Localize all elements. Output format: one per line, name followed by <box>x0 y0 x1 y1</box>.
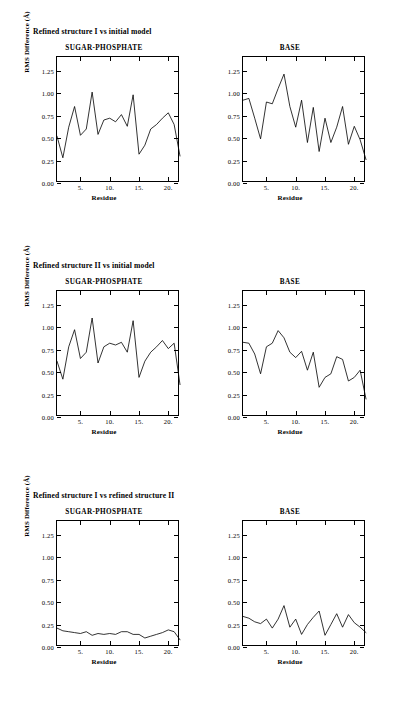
chart-title: SUGAR-PHOSPHATE <box>14 44 194 52</box>
x-tick-label: 10. <box>105 418 114 425</box>
chart-title: BASE <box>200 508 380 516</box>
x-tick-label: 10. <box>291 184 300 191</box>
y-tick-label: 1.00 <box>42 324 54 331</box>
x-tick-label: 15. <box>321 418 330 425</box>
x-tick-label: 15. <box>135 184 144 191</box>
chart-sugar-phosphate: SUGAR-PHOSPHATERMS Difference (Å)0.000.2… <box>14 508 194 693</box>
y-axis-label: RMS Difference (Å) <box>23 451 31 561</box>
y-tick-mark <box>360 647 364 648</box>
plot-area: RMS Difference (Å)0.000.250.500.751.001.… <box>56 56 179 182</box>
x-axis-label: Residue <box>14 658 194 666</box>
x-tick-label: 10. <box>291 648 300 655</box>
y-tick-label: 0.00 <box>228 414 240 421</box>
y-tick-label: 1.25 <box>42 67 54 74</box>
x-tick-label: 20. <box>164 418 173 425</box>
y-tick-label: 0.75 <box>228 112 240 119</box>
x-tick-label: 5. <box>78 184 83 191</box>
y-tick-mark <box>243 647 247 648</box>
y-tick-label: 0.50 <box>42 135 54 142</box>
x-tick-label: 15. <box>321 184 330 191</box>
x-tick-label: 15. <box>321 648 330 655</box>
y-tick-label: 1.25 <box>228 67 240 74</box>
data-series-line <box>57 291 180 417</box>
x-tick-label: 20. <box>350 418 359 425</box>
x-axis-label: Residue <box>14 194 194 202</box>
y-tick-mark <box>57 647 61 648</box>
y-tick-mark <box>360 183 364 184</box>
x-tick-label: 20. <box>164 648 173 655</box>
y-tick-label: 0.75 <box>228 346 240 353</box>
plot-area: 0.000.250.500.751.001.255.10.15.20. <box>242 56 365 182</box>
x-tick-label: 5. <box>264 184 269 191</box>
x-axis-label: Residue <box>14 428 194 436</box>
y-tick-mark <box>243 417 247 418</box>
y-tick-label: 1.25 <box>228 531 240 538</box>
x-axis-label: Residue <box>200 428 380 436</box>
y-tick-label: 0.00 <box>42 180 54 187</box>
plot-area: RMS Difference (Å)0.000.250.500.751.001.… <box>56 520 179 646</box>
plot-area: 0.000.250.500.751.001.255.10.15.20. <box>242 520 365 646</box>
y-tick-mark <box>174 183 178 184</box>
x-axis-label: Residue <box>200 194 380 202</box>
y-tick-label: 0.25 <box>228 621 240 628</box>
y-tick-label: 0.00 <box>42 644 54 651</box>
y-tick-label: 0.25 <box>42 621 54 628</box>
y-tick-label: 0.75 <box>228 576 240 583</box>
data-series-line <box>57 57 180 183</box>
y-axis-label: RMS Difference (Å) <box>23 221 31 331</box>
y-tick-label: 0.50 <box>42 599 54 606</box>
x-tick-label: 15. <box>135 418 144 425</box>
y-tick-label: 0.75 <box>42 346 54 353</box>
y-tick-label: 0.00 <box>228 644 240 651</box>
y-tick-label: 0.00 <box>42 414 54 421</box>
chart-title: BASE <box>200 44 380 52</box>
chart-sugar-phosphate: SUGAR-PHOSPHATERMS Difference (Å)0.000.2… <box>14 44 194 229</box>
chart-base: BASE0.000.250.500.751.001.255.10.15.20.R… <box>200 44 380 229</box>
x-tick-label: 5. <box>264 418 269 425</box>
chart-title: SUGAR-PHOSPHATE <box>14 508 194 516</box>
y-tick-label: 1.25 <box>228 301 240 308</box>
y-tick-label: 0.50 <box>228 135 240 142</box>
y-tick-mark <box>174 647 178 648</box>
panel-title: Refined structure I vs initial model <box>33 27 152 36</box>
data-series-line <box>243 57 366 183</box>
y-tick-label: 1.00 <box>228 554 240 561</box>
data-series-line <box>243 291 366 417</box>
x-tick-label: 5. <box>78 418 83 425</box>
x-tick-label: 15. <box>135 648 144 655</box>
y-tick-label: 1.00 <box>228 324 240 331</box>
y-tick-label: 1.00 <box>42 554 54 561</box>
y-tick-label: 0.25 <box>228 157 240 164</box>
y-tick-label: 0.00 <box>228 180 240 187</box>
y-tick-label: 0.50 <box>228 369 240 376</box>
panel-title: Refined structure II vs initial model <box>33 261 155 270</box>
y-tick-label: 0.25 <box>42 391 54 398</box>
panel-title: Refined structure I vs refined structure… <box>33 491 174 500</box>
y-tick-mark <box>243 183 247 184</box>
y-tick-label: 1.25 <box>42 301 54 308</box>
y-tick-label: 1.00 <box>42 90 54 97</box>
y-tick-label: 0.25 <box>228 391 240 398</box>
y-tick-mark <box>360 417 364 418</box>
chart-sugar-phosphate: SUGAR-PHOSPHATERMS Difference (Å)0.000.2… <box>14 278 194 463</box>
y-tick-mark <box>174 417 178 418</box>
x-axis-label: Residue <box>200 658 380 666</box>
y-tick-label: 0.50 <box>228 599 240 606</box>
y-tick-label: 1.25 <box>42 531 54 538</box>
x-tick-label: 10. <box>291 418 300 425</box>
x-tick-label: 20. <box>350 648 359 655</box>
y-tick-label: 1.00 <box>228 90 240 97</box>
data-series-line <box>57 521 180 647</box>
chart-title: SUGAR-PHOSPHATE <box>14 278 194 286</box>
y-tick-label: 0.25 <box>42 157 54 164</box>
x-tick-label: 20. <box>350 184 359 191</box>
y-tick-label: 0.75 <box>42 576 54 583</box>
y-tick-label: 0.75 <box>42 112 54 119</box>
y-tick-mark <box>57 417 61 418</box>
chart-base: BASE0.000.250.500.751.001.255.10.15.20.R… <box>200 278 380 463</box>
x-tick-label: 10. <box>105 648 114 655</box>
plot-area: 0.000.250.500.751.001.255.10.15.20. <box>242 290 365 416</box>
plot-area: RMS Difference (Å)0.000.250.500.751.001.… <box>56 290 179 416</box>
x-tick-label: 5. <box>78 648 83 655</box>
chart-title: BASE <box>200 278 380 286</box>
